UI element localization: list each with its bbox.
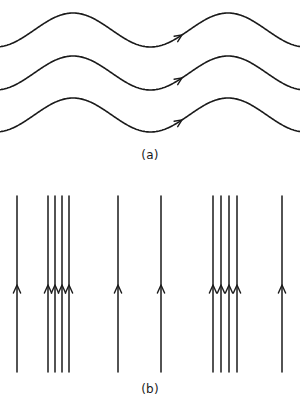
panel-a-curves — [0, 13, 300, 132]
streamline-diagram — [0, 0, 300, 406]
figure-container: (a) (b) — [0, 0, 300, 406]
panel-label-b: (b) — [0, 382, 300, 396]
panel-b-lines — [13, 196, 285, 372]
streamline-wave-1 — [0, 13, 300, 47]
streamline-wave-3 — [0, 98, 300, 132]
panel-label-a: (a) — [0, 148, 300, 162]
streamline-wave-2 — [0, 56, 300, 90]
